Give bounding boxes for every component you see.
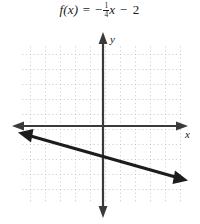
x-axis-label: x (184, 128, 190, 140)
variable-x: x (109, 2, 115, 17)
coordinate-plane: y x (0, 24, 200, 224)
y-axis-label: y (109, 33, 115, 45)
function-argument: (x) (63, 2, 78, 17)
constant-two: 2 (132, 2, 141, 17)
equation-title: f(x) = −14x − 2 (0, 2, 200, 19)
fraction-one-fourth: 14 (103, 2, 109, 18)
equals-sign: = (82, 2, 92, 17)
fraction-numerator: 1 (103, 2, 109, 9)
fraction-denominator: 4 (103, 11, 109, 18)
leading-minus-sign: − (95, 2, 103, 17)
graph-figure: f(x) = −14x − 2 (0, 0, 200, 224)
minus-operator: − (119, 2, 129, 17)
